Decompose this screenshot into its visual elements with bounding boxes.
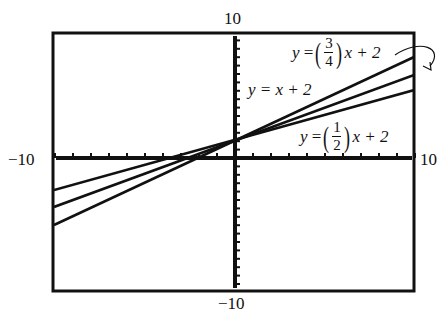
- eq-rest: x + 2: [352, 127, 388, 147]
- eq-var: y: [292, 43, 300, 63]
- arrowhead-icon: [423, 62, 431, 70]
- y-max-label: 10: [224, 10, 241, 27]
- equation-label-1-2: y = (12) x + 2: [300, 120, 388, 153]
- eq-var: y: [300, 127, 308, 147]
- x-max-label: 10: [420, 151, 437, 168]
- denominator: 2: [333, 138, 341, 153]
- equation-label-x-plus-2: y = x + 2: [248, 80, 312, 100]
- eq-var: y: [248, 80, 256, 100]
- eq-sign: =: [304, 43, 314, 63]
- numerator: 1: [333, 120, 341, 135]
- x-min-label: −10: [8, 151, 35, 168]
- y-min-label: −10: [218, 295, 245, 312]
- eq-rest: x + 2: [344, 43, 380, 63]
- eq-sign: =: [312, 127, 322, 147]
- eq-rest: = x + 2: [260, 80, 312, 100]
- numerator: 3: [325, 36, 333, 51]
- equation-label-3-4: y = (34) x + 2: [292, 36, 380, 69]
- denominator: 4: [325, 54, 333, 69]
